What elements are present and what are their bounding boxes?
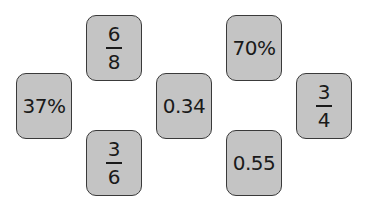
denominator: 4 [318,110,331,130]
numerator: 3 [318,82,331,102]
card-decimal-0-55[interactable]: 0.55 [226,130,282,196]
fraction: 3 6 [106,139,122,187]
card-value: 0.34 [163,94,206,118]
card-fraction-6-8[interactable]: 6 8 [86,15,142,81]
card-value: 37% [23,94,66,118]
card-decimal-0-34[interactable]: 0.34 [156,73,212,139]
fraction: 3 4 [316,82,332,130]
card-percent-37[interactable]: 37% [16,73,72,139]
card-fraction-3-4[interactable]: 3 4 [296,73,352,139]
fraction-bar [316,105,332,107]
denominator: 6 [108,167,121,187]
fraction: 6 8 [106,24,122,72]
numerator: 6 [108,24,121,44]
denominator: 8 [108,52,121,72]
fraction-bar [106,162,122,164]
card-value: 0.55 [233,151,276,175]
card-value: 70% [233,36,276,60]
fraction-bar [106,47,122,49]
card-fraction-3-6[interactable]: 3 6 [86,130,142,196]
numerator: 3 [108,139,121,159]
card-percent-70[interactable]: 70% [226,15,282,81]
